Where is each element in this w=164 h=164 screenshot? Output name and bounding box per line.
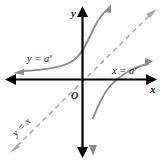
x-axis-arrow-left-icon	[5, 74, 16, 85]
identity-line-label-group: y = x	[9, 115, 33, 139]
inverse-arrow-end-icon	[145, 58, 153, 66]
inverse-curve-label-base: x = a	[111, 65, 134, 76]
exponential-arrow-start-icon	[13, 69, 24, 75]
x-axis-label: x	[149, 83, 156, 95]
y-axis-arrow-down-icon	[77, 147, 88, 158]
exponential-curve-label-base: y = a	[26, 53, 49, 64]
function-graph-figure: y x O y = ax x = ay y = x	[0, 0, 164, 164]
inverse-curve-label: x = ay	[111, 64, 138, 76]
identity-line-label: y = x	[9, 115, 33, 139]
inverse-arrow-start-icon	[89, 145, 97, 156]
figure-container: y x O y = ax x = ay y = x	[0, 0, 164, 164]
exponential-curve-group	[13, 4, 111, 75]
y-axis-arrow-up-icon	[77, 6, 88, 17]
inverse-curve-label-group: x = ay	[111, 64, 138, 76]
exponential-curve-label-group: y = ax	[26, 52, 53, 64]
exponential-arrow-end-icon	[104, 4, 111, 13]
origin-label: O	[71, 90, 78, 101]
exponential-curve-label-exponent: x	[48, 52, 53, 60]
exponential-curve-label: y = ax	[26, 52, 53, 64]
y-axis-label: y	[69, 7, 76, 19]
